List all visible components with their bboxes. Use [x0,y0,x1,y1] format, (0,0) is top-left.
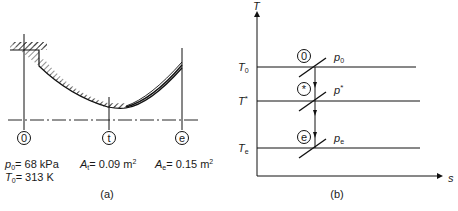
station-marker-t: t [103,132,116,145]
figure: 0 t e p0= 68 kPa T0= 313 K At= 0.09 m2 A… [0,0,458,211]
Te-label: Te [238,142,249,155]
T0-label: T0 [238,61,249,74]
state-marker-0: 0 [298,50,311,63]
state-marker-star: * [298,83,311,96]
caption-a: (a) [100,188,113,200]
svg-text:t: t [107,132,110,144]
pstar-label: p* [333,83,343,96]
x-axis-label: s [448,172,454,184]
station-marker-0: 0 [18,132,31,145]
arrow-icon [313,110,317,116]
arrow-icon [313,132,317,138]
nozzle-wall-hatch [10,42,182,108]
arrow-icon [313,82,317,88]
inlet-temperature: T0= 313 K [5,171,55,184]
p0-label: p0 [333,51,344,64]
svg-text:e: e [301,131,307,143]
nozzle-panel: 0 t e p0= 68 kPa T0= 313 K At= 0.09 m2 A… [4,34,213,200]
caption-b: (b) [330,188,343,200]
throat-area: At= 0.09 m2 [79,158,136,171]
pe-label: pe [333,132,344,145]
y-axis-label: T [253,0,261,12]
svg-text:e: e [179,132,185,144]
svg-text:0: 0 [301,50,307,62]
station-marker-e: e [176,132,189,145]
exit-area: Ae= 0.15 m2 [154,158,213,171]
state-marker-e: e [298,131,311,144]
ts-diagram-panel: T s T0 T* Te 0 * e p0 [238,0,454,200]
Tstar-label: T* [238,94,248,107]
svg-text:0: 0 [21,132,27,144]
svg-text:*: * [302,83,307,95]
inlet-wall-hatch [10,42,47,50]
inlet-pressure: p0= 68 kPa [4,158,60,171]
